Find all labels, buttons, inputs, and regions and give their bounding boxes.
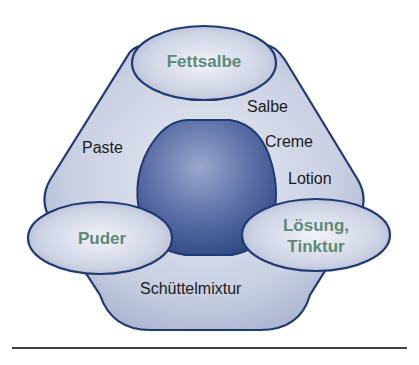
label-fettsalbe: Fettsalbe <box>158 52 250 72</box>
label-puder: Puder <box>62 229 142 249</box>
label-loesung: Lösung, <box>266 216 366 236</box>
label-salbe: Salbe <box>247 98 288 116</box>
label-tinktur: Tinktur <box>266 237 366 257</box>
label-creme: Creme <box>265 133 313 151</box>
label-schuettelmixtur: Schüttelmixtur <box>140 280 241 298</box>
label-lotion: Lotion <box>288 170 332 188</box>
label-paste: Paste <box>82 139 123 157</box>
